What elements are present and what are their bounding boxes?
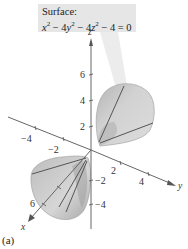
y-tick-label: −4 [21,134,32,144]
z-axis-label: z [88,27,92,37]
z-axis-arrow [89,38,93,46]
upper-sheet [96,84,154,146]
y-tick-label: 2 [111,166,116,176]
z-tick-label: 2 [80,122,85,132]
lower-sheet [31,156,91,220]
3d-plot [0,0,188,249]
z-tick-label: −4 [95,200,106,210]
y-tick-label: −2 [48,145,59,155]
z-tick-label: 6 [80,70,85,80]
z-tick-label: 4 [80,96,85,106]
z-tick-label: −2 [95,176,106,186]
y-axis-label: y [178,181,182,191]
y-tick-label: 4 [139,177,144,187]
x-tick-label: 6 [30,199,35,209]
x-axis-label: x [21,222,25,232]
y-axis-arrow [167,180,176,186]
figure-caption: (a) [2,234,14,246]
